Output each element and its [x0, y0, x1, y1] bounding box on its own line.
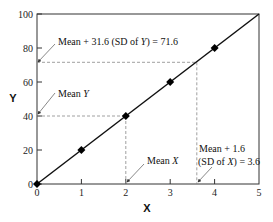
- x-tick-label: 3: [168, 187, 173, 198]
- y-axis: [37, 14, 42, 184]
- y-tick-label: 40: [23, 111, 33, 122]
- y-tick-label: 20: [23, 145, 33, 156]
- x-axis-label: X: [143, 202, 151, 214]
- chart: 0 20 40 60 80 100 0 1 2 3 4 5 X Y: [0, 0, 273, 222]
- x-tick-label: 0: [35, 187, 40, 198]
- y-tick-label: 80: [23, 43, 33, 54]
- annotation-mean-x: Mean X: [147, 155, 179, 166]
- x-tick-label: 1: [79, 187, 84, 198]
- y-axis-label: Y: [9, 92, 17, 104]
- y-tick-label: 0: [28, 179, 33, 190]
- y-tick-label: 60: [23, 77, 33, 88]
- arrow-mean-x: [127, 164, 144, 182]
- arrow-sd-x: [198, 167, 212, 182]
- x-tick-label: 5: [257, 187, 262, 198]
- y-tick-label: 100: [18, 9, 33, 20]
- annotation-sd-x-line2: (SD of X) = 3.6: [198, 156, 260, 168]
- x-tick-label: 2: [123, 187, 128, 198]
- arrow-mean-y: [38, 93, 55, 114]
- x-tick-label: 4: [212, 187, 217, 198]
- arrow-sd-y: [38, 44, 55, 62]
- x-axis: [81, 179, 214, 184]
- annotation-sd-y: Mean + 31.6 (SD of Y) = 71.6: [58, 36, 178, 48]
- annotation-mean-y: Mean Y: [58, 88, 90, 99]
- annotation-sd-x-line1: Mean + 1.6: [199, 143, 245, 154]
